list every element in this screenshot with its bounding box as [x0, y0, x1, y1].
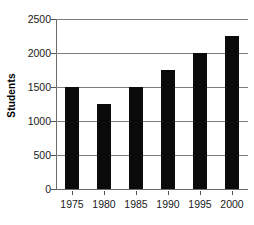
x-axis-tick-label: 1995 — [188, 198, 211, 210]
y-axis-tick-mark — [51, 189, 56, 190]
gridline — [56, 87, 248, 88]
gridline — [56, 189, 248, 190]
gridline — [56, 53, 248, 54]
x-axis-tick-mark — [136, 191, 137, 195]
x-axis-tick-mark — [72, 191, 73, 195]
y-axis-tick-mark — [51, 87, 56, 88]
y-axis-tick-mark — [51, 121, 56, 122]
y-axis-tick-label: 2000 — [22, 48, 51, 58]
x-axis-tick-label: 1980 — [92, 198, 115, 210]
x-axis-tick-label: 2000 — [220, 198, 243, 210]
y-axis-tick-label: 1500 — [22, 82, 51, 92]
x-axis-tick-mark — [168, 191, 169, 195]
gridline — [56, 121, 248, 122]
bar-chart: Students 05001000150020002500 1975198019… — [0, 0, 254, 225]
bar — [161, 70, 175, 189]
y-axis-tick-label: 500 — [22, 150, 51, 160]
bar — [65, 87, 79, 189]
y-axis-title-text: Students — [6, 73, 17, 117]
x-axis-tick-mark — [232, 191, 233, 195]
y-axis-title: Students — [0, 0, 22, 190]
y-axis-tick-mark — [51, 19, 56, 20]
y-axis-tick-mark — [51, 155, 56, 156]
bar — [225, 36, 239, 189]
x-axis-tick-label: 1975 — [60, 198, 83, 210]
y-axis-tick-labels: 05001000150020002500 — [22, 0, 51, 225]
x-axis-tick-mark — [104, 191, 105, 195]
gridline — [56, 19, 248, 20]
x-axis-tick-label: 1990 — [156, 198, 179, 210]
y-axis-tick-label: 1000 — [22, 116, 51, 126]
x-axis-tick-mark — [200, 191, 201, 195]
x-axis-tick-label: 1985 — [124, 198, 147, 210]
bar — [129, 87, 143, 189]
y-axis-tick-mark — [51, 53, 56, 54]
bar — [97, 104, 111, 189]
y-axis-tick-label: 2500 — [22, 14, 51, 24]
bar — [193, 53, 207, 189]
plot-area — [56, 19, 248, 189]
gridline — [56, 155, 248, 156]
y-axis-tick-label: 0 — [22, 184, 51, 194]
